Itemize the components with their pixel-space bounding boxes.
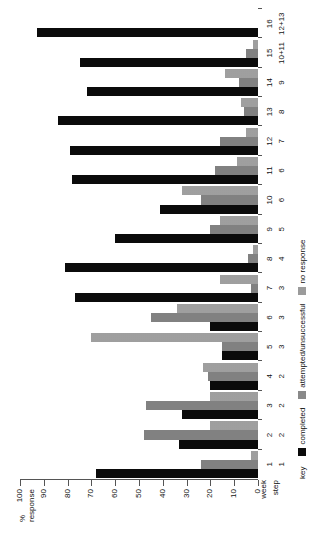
bar-noresponse (251, 451, 258, 460)
bar-attempted (208, 372, 258, 381)
bar-group (20, 362, 258, 391)
bar-completed (179, 440, 258, 449)
bar-attempted (210, 225, 258, 234)
bar-attempted (244, 107, 258, 116)
axis-tick: 90 (44, 480, 45, 486)
bar-chart: 0102030405060708090100 % response weekst… (0, 0, 316, 542)
bar-attempted (215, 166, 258, 175)
category-week: 9 (264, 215, 276, 244)
bar-completed (37, 28, 258, 37)
legend-swatch-noresponse (298, 287, 306, 295)
category-separator (258, 361, 262, 362)
category-step: 8 (276, 97, 288, 126)
category-separator (258, 8, 262, 9)
category-step: 5 (276, 215, 288, 244)
category-step: 3 (276, 303, 288, 332)
bar-group (20, 303, 258, 332)
category-separator (258, 67, 262, 68)
axis-tick: 20 (210, 480, 211, 486)
bar-completed (182, 410, 258, 419)
category-label: 32 (264, 391, 288, 420)
category-label: 63 (264, 303, 288, 332)
bar-completed (222, 351, 258, 360)
category-step: 10+11 (276, 38, 288, 67)
bar-attempted (201, 460, 258, 469)
category-label: 1510+11 (264, 38, 288, 67)
category-step: 1 (276, 450, 288, 479)
legend-label: completed (298, 408, 307, 445)
category-label: 127 (264, 127, 288, 156)
bar-noresponse (237, 157, 258, 166)
bar-completed (65, 263, 258, 272)
category-week: 1 (264, 450, 276, 479)
category-label: 95 (264, 215, 288, 244)
bar-noresponse (210, 421, 258, 430)
bar-group (20, 38, 258, 67)
legend-swatch-completed (298, 448, 306, 456)
axis-tick: 70 (91, 480, 92, 486)
category-week: 8 (264, 244, 276, 273)
bar-group (20, 68, 258, 97)
bar-group (20, 185, 258, 214)
category-axis-name: step (270, 480, 282, 518)
legend-swatch-attempted (298, 391, 306, 399)
bar-completed (210, 381, 258, 390)
bar-group (20, 332, 258, 361)
axis-tick: 80 (68, 480, 69, 486)
category-week: 6 (264, 303, 276, 332)
legend-item: completed (298, 408, 307, 456)
bar-group (20, 273, 258, 302)
bars-area (20, 9, 258, 479)
category-step: 2 (276, 362, 288, 391)
bar-group (20, 9, 258, 38)
category-axis-name: week (258, 480, 270, 518)
axis-tick-label: 80 (62, 489, 73, 498)
value-axis-title: % response (18, 482, 36, 522)
category-separator (258, 302, 262, 303)
axis-tick: 50 (139, 480, 140, 486)
category-separator (258, 390, 262, 391)
axis-tick-label: 70 (85, 489, 96, 498)
category-week: 15 (264, 38, 276, 67)
bar-attempted (220, 137, 258, 146)
legend-item: attempted/unsuccessful (298, 304, 307, 399)
bar-attempted (144, 430, 258, 439)
category-separator (258, 272, 262, 273)
category-step: 2 (276, 391, 288, 420)
bar-group (20, 420, 258, 449)
bar-noresponse (220, 275, 258, 284)
category-separator (258, 155, 262, 156)
bar-noresponse (210, 392, 258, 401)
bar-noresponse (182, 186, 258, 195)
bar-noresponse (220, 216, 258, 225)
category-step: 7 (276, 127, 288, 156)
bar-noresponse (241, 98, 258, 107)
category-axis-labels: 1122324253637384951061161271381491510+11… (258, 9, 292, 479)
category-step: 2 (276, 420, 288, 449)
bar-attempted (222, 342, 258, 351)
axis-tick: 30 (187, 480, 188, 486)
category-week: 16 (264, 9, 276, 38)
category-separator (258, 126, 262, 127)
axis-tick: 40 (163, 480, 164, 486)
category-label: 106 (264, 185, 288, 214)
bar-completed (160, 205, 258, 214)
bar-completed (80, 58, 259, 67)
category-separator (258, 96, 262, 97)
category-week: 10 (264, 185, 276, 214)
category-label: 116 (264, 156, 288, 185)
category-week: 7 (264, 273, 276, 302)
bar-attempted (246, 49, 258, 58)
bar-noresponse (91, 333, 258, 342)
category-week: 12 (264, 127, 276, 156)
axis-tick: 60 (115, 480, 116, 486)
bar-attempted (201, 195, 258, 204)
category-separator (258, 449, 262, 450)
category-label: 1612+13 (264, 9, 288, 38)
category-week: 4 (264, 362, 276, 391)
bar-noresponse (177, 304, 258, 313)
bar-noresponse (203, 363, 258, 372)
category-step: 4 (276, 244, 288, 273)
bar-group (20, 391, 258, 420)
bar-attempted (239, 78, 258, 87)
